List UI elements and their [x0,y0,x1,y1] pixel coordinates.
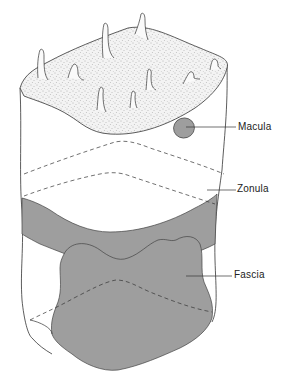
right-wall [212,64,227,322]
zonula-inner-edge [24,173,215,204]
dashed-outline-upper [24,141,224,174]
fascia-junction [51,237,212,371]
macula-label: Macula [238,121,271,132]
lower-left-face [30,320,52,334]
fascia-label: Fascia [234,269,265,280]
apical-surface [20,27,227,134]
zonula-label: Zonula [237,183,269,194]
bottom-left-edge [32,338,52,354]
